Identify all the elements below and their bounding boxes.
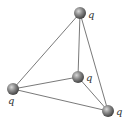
edge-left-bottom-right <box>13 89 108 111</box>
edge-top-bottom-right <box>80 13 108 111</box>
charge-sphere-top <box>74 7 86 19</box>
edge-top-left <box>13 13 80 89</box>
charge-label-top: q <box>88 9 94 20</box>
edge-top-middle <box>78 13 80 77</box>
tetrahedron-edges <box>13 13 108 111</box>
charge-label-bottom-right: q <box>116 106 122 117</box>
charge-label-middle: q <box>86 72 92 83</box>
charge-label-left: q <box>8 95 14 106</box>
charge-sphere-bottom-right <box>102 105 114 117</box>
edge-left-middle <box>13 77 78 89</box>
charge-spheres <box>7 7 114 117</box>
tetrahedron-diagram: qqqq <box>0 0 126 123</box>
charge-sphere-left <box>7 83 19 95</box>
charge-sphere-middle <box>72 71 84 83</box>
